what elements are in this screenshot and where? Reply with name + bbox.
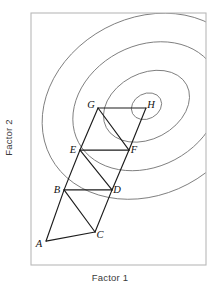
vertex-label-A: A [35, 238, 43, 249]
vertex-label-E: E [69, 144, 77, 155]
contour-plot-figure: ABCDEFGH Factor 1 Factor 2 [0, 0, 220, 296]
vertex-label-F: F [130, 144, 138, 155]
vertex-label-D: D [112, 184, 121, 195]
y-axis-label: Factor 2 [3, 103, 14, 173]
plot-canvas: ABCDEFGH [0, 0, 220, 296]
vertex-label-G: G [87, 99, 95, 110]
vertex-label-H: H [146, 99, 156, 110]
x-axis-label: Factor 1 [0, 272, 220, 283]
vertex-label-B: B [54, 184, 61, 195]
vertex-label-C: C [97, 229, 105, 240]
